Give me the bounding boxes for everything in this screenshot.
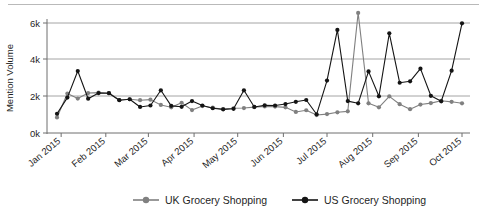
data-point-marker xyxy=(211,106,215,110)
data-point-marker xyxy=(128,97,132,101)
data-point-marker xyxy=(242,88,246,92)
x-axis-tick-marks xyxy=(61,133,462,137)
data-point-marker xyxy=(335,28,339,32)
data-point-marker xyxy=(408,107,412,111)
data-point-marker xyxy=(335,110,339,114)
data-point-marker xyxy=(460,101,464,105)
y-axis-tick-labels: 0k2k4k6k xyxy=(30,18,40,139)
data-point-marker xyxy=(418,67,422,71)
data-point-marker xyxy=(366,69,370,73)
data-point-marker xyxy=(86,97,90,101)
data-point-marker xyxy=(377,94,381,98)
data-point-marker xyxy=(169,104,173,108)
mention-volume-line-chart: 0k2k4k6k Mention Volume Jan 2015Feb 2015… xyxy=(0,0,487,222)
chart-container: 0k2k4k6k Mention Volume Jan 2015Feb 2015… xyxy=(0,0,487,222)
data-point-marker xyxy=(429,94,433,98)
data-point-marker xyxy=(450,69,454,73)
series-uk-grocery-shopping xyxy=(55,11,464,120)
data-point-marker xyxy=(408,79,412,83)
data-point-marker xyxy=(138,98,142,102)
data-point-marker xyxy=(460,21,464,25)
data-point-marker xyxy=(76,96,80,100)
x-tick-label: Mar 2015 xyxy=(112,135,150,169)
y-axis-title: Mention Volume xyxy=(4,44,15,112)
data-point-marker xyxy=(398,81,402,85)
x-tick-label: Feb 2015 xyxy=(69,135,107,169)
data-point-marker xyxy=(377,105,381,109)
data-point-marker xyxy=(55,112,59,116)
data-point-marker xyxy=(273,103,277,107)
x-tick-label: Aug 2015 xyxy=(336,135,374,170)
data-point-marker xyxy=(294,100,298,104)
data-point-marker xyxy=(325,78,329,82)
data-point-marker xyxy=(366,101,370,105)
data-point-marker xyxy=(387,31,391,35)
data-point-marker xyxy=(159,103,163,107)
data-point-marker xyxy=(148,98,152,102)
data-point-marker xyxy=(283,102,287,106)
data-point-marker xyxy=(346,99,350,103)
data-point-marker xyxy=(148,103,152,107)
x-tick-label: Jul 2015 xyxy=(294,135,329,167)
data-point-marker xyxy=(242,106,246,110)
data-point-marker xyxy=(221,107,225,111)
y-tick-label: 0k xyxy=(30,128,40,139)
x-tick-label: Oct 2015 xyxy=(427,135,464,168)
data-point-marker xyxy=(252,105,256,109)
x-tick-label: Apr 2015 xyxy=(159,135,196,168)
gridlines xyxy=(47,23,470,133)
data-point-marker xyxy=(190,99,194,103)
x-tick-label: Jan 2015 xyxy=(25,135,62,169)
data-point-marker xyxy=(315,112,319,116)
x-tick-label: May 2015 xyxy=(200,135,239,170)
series-us-grocery-shopping xyxy=(55,21,464,116)
y-tick-marks xyxy=(43,23,47,133)
data-point-marker xyxy=(55,115,59,119)
data-point-marker xyxy=(429,101,433,105)
y-tick-label: 6k xyxy=(30,18,40,29)
x-tick-label: Sep 2015 xyxy=(381,135,419,170)
x-axis-tick-labels: Jan 2015Feb 2015Mar 2015Apr 2015May 2015… xyxy=(25,135,463,170)
y-tick-label: 2k xyxy=(30,91,40,102)
data-point-marker xyxy=(107,91,111,95)
data-point-marker xyxy=(200,103,204,107)
data-point-marker xyxy=(159,88,163,92)
data-point-marker xyxy=(450,100,454,104)
data-point-marker xyxy=(138,105,142,109)
data-point-marker xyxy=(263,103,267,107)
data-point-marker xyxy=(387,94,391,98)
data-point-marker xyxy=(76,69,80,73)
data-point-marker xyxy=(304,108,308,112)
y-tick-label: 4k xyxy=(30,54,40,65)
data-point-marker xyxy=(346,109,350,113)
data-point-marker xyxy=(190,108,194,112)
data-point-marker xyxy=(65,96,69,100)
data-point-marker xyxy=(294,110,298,114)
data-point-marker xyxy=(180,105,184,109)
series-line xyxy=(57,13,462,118)
data-point-marker xyxy=(325,112,329,116)
x-tick-label: Jun 2015 xyxy=(248,135,285,169)
data-point-marker xyxy=(439,99,443,103)
data-point-marker xyxy=(398,102,402,106)
data-point-marker xyxy=(180,101,184,105)
data-point-marker xyxy=(117,98,121,102)
data-point-marker xyxy=(356,101,360,105)
data-point-marker xyxy=(418,102,422,106)
data-point-marker xyxy=(356,11,360,15)
data-point-marker xyxy=(231,107,235,111)
data-point-marker xyxy=(304,98,308,102)
data-point-marker xyxy=(96,91,100,95)
